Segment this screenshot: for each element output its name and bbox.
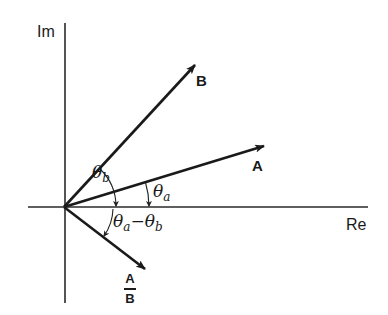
vector-a-label: A [252,158,263,173]
vector-b-label: B [196,73,207,88]
theta-a-subscript: a [163,190,170,204]
vector-a-over-b-label: A B [124,271,136,306]
theta-b-subscript: b [155,220,163,234]
complex-plane-diagram: Im Re B A A B θb θa θa−θb [0,0,388,315]
theta-symbol: θ [153,181,163,201]
theta-symbol: θ [145,211,155,231]
fraction-denominator: B [125,291,134,306]
fraction-bar [124,288,136,290]
theta-b-label: θb [92,164,110,184]
theta-symbol: θ [113,211,123,231]
imaginary-axis-label: Im [37,24,55,40]
fraction-numerator: A [125,271,134,286]
theta-a-label: θa [153,183,170,203]
minus-operator: − [130,211,144,231]
real-axis-label: Re [346,217,366,233]
theta-difference-label: θa−θb [113,213,163,233]
theta-symbol: θ [92,162,102,182]
diagram-graphics [0,0,388,315]
theta-b-subscript: b [102,171,110,185]
theta-a-arc [146,183,150,207]
theta-diff-arc [104,209,113,236]
